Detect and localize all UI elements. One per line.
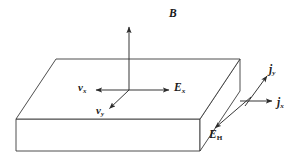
label-electric-field-x: Ex	[174, 82, 185, 94]
label-jy-subscript: y	[272, 69, 275, 77]
hall-effect-diagram-canvas	[0, 0, 300, 161]
label-vy-subscript: y	[101, 110, 104, 117]
label-current-density-x: jx	[277, 97, 284, 109]
label-drift-velocity-x: vx	[78, 82, 86, 93]
label-vx-subscript: x	[83, 87, 86, 94]
label-drift-velocity-y: vy	[96, 105, 104, 116]
slab-front-face	[16, 119, 200, 151]
slab-group	[16, 59, 240, 151]
label-current-density-y: jy	[269, 64, 275, 76]
hall-effect-figure: B vx vy Ex jy jx EH	[0, 0, 300, 161]
current-density-y-arrow	[245, 76, 267, 106]
label-Ex-symbol: E	[174, 81, 182, 93]
label-EH-subscript: H	[217, 134, 223, 142]
label-B-symbol: B	[169, 7, 177, 19]
label-magnetic-field: B	[169, 8, 177, 20]
label-EH-symbol: E	[209, 128, 217, 140]
slab-top-face	[16, 59, 240, 119]
label-jx-subscript: x	[280, 102, 284, 110]
label-hall-field: EH	[209, 129, 222, 141]
label-Ex-subscript: x	[182, 87, 186, 95]
